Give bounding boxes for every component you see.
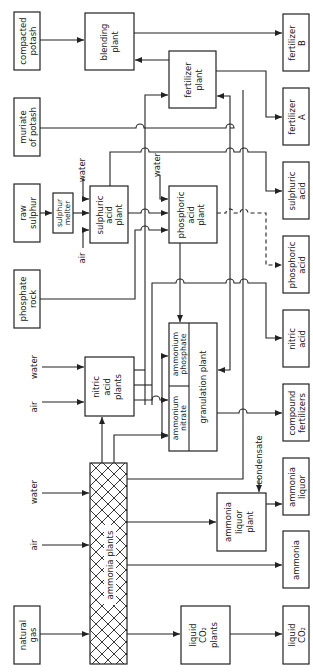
svg-text:CO₂: CO₂ <box>297 627 307 643</box>
svg-text:plant: plant <box>194 68 204 90</box>
svg-text:acid: acid <box>297 182 307 200</box>
ammonia-plants: ammonia plants <box>90 463 127 664</box>
sulphur-melter: sulphur melter <box>53 193 73 233</box>
svg-text:ammonia: ammonia <box>291 540 301 580</box>
svg-text:compound: compound <box>287 391 297 436</box>
output-compound-fertilizers: compound fertilizers <box>283 384 309 441</box>
svg-text:fertilizer: fertilizer <box>183 62 193 98</box>
granulation-plant: ammonium phosphate ammonium nitrate gran… <box>169 323 217 451</box>
svg-text:raw: raw <box>18 205 28 221</box>
svg-text:acid: acid <box>104 206 114 224</box>
nitric-acid-plants: nitric acid plants <box>85 357 134 416</box>
svg-text:melter: melter <box>63 200 72 226</box>
svg-text:granulation plant: granulation plant <box>198 350 208 424</box>
water-label: water <box>29 479 39 504</box>
ammonia-liquor-plant: ammonia liquor plant <box>217 493 266 551</box>
svg-text:liquor: liquor <box>297 474 307 499</box>
svg-text:ammonia: ammonia <box>223 502 233 542</box>
svg-text:phosphate: phosphate <box>179 333 188 374</box>
svg-text:compacted: compacted <box>18 17 28 64</box>
air-label: air <box>29 539 39 551</box>
svg-text:fertilizers: fertilizers <box>297 393 307 433</box>
output-fertilizer-a: fertilizer A <box>283 88 309 145</box>
svg-text:phosphate: phosphate <box>18 277 28 322</box>
input-natural-gas: natural gas <box>14 606 40 664</box>
phosphoric-acid-plant: phosphoric acid plant <box>169 186 217 243</box>
svg-text:plant: plant <box>110 30 120 52</box>
svg-text:acid: acid <box>297 256 307 274</box>
svg-text:muriate: muriate <box>18 110 28 143</box>
svg-text:fertilizer: fertilizer <box>287 99 297 135</box>
svg-text:liquid: liquid <box>287 623 297 646</box>
svg-text:phosphoric: phosphoric <box>176 191 186 238</box>
water-label: water <box>152 152 162 177</box>
liquid-co2-plants: liquid CO₂ plants <box>181 606 230 664</box>
input-compacted-potash: compacted potash <box>14 12 40 70</box>
svg-text:of potash: of potash <box>28 107 38 147</box>
process-flow-diagram: compacted potash blending plant fertiliz… <box>0 0 313 672</box>
svg-text:potash: potash <box>28 27 38 56</box>
output-sulphuric-acid: sulphuric acid <box>283 162 309 219</box>
svg-text:acid: acid <box>102 378 112 396</box>
output-phosphoric-acid: phosphoric acid <box>283 236 309 293</box>
svg-text:nitrate: nitrate <box>179 405 188 431</box>
svg-text:plant: plant <box>114 203 124 225</box>
svg-text:plant: plant <box>245 510 255 532</box>
svg-text:phosphoric: phosphoric <box>287 241 297 288</box>
air-label: air <box>77 252 87 264</box>
sulphuric-acid-plant: sulphuric acid plant <box>90 186 128 243</box>
air-label: air <box>29 401 39 413</box>
svg-text:liquor: liquor <box>234 509 244 534</box>
svg-text:ammonia plants: ammonia plants <box>105 530 115 599</box>
blending-plant: blending plant <box>85 13 134 70</box>
svg-text:liquid: liquid <box>188 623 198 646</box>
svg-text:fertilizer: fertilizer <box>287 25 297 61</box>
svg-text:blending: blending <box>99 24 109 61</box>
svg-text:B: B <box>297 40 307 46</box>
svg-text:nitric: nitric <box>287 328 297 350</box>
svg-text:plant: plant <box>196 203 206 225</box>
svg-text:plants: plants <box>209 621 219 648</box>
output-ammonia: ammonia <box>283 531 309 588</box>
svg-text:A: A <box>297 114 307 120</box>
svg-text:nitric: nitric <box>91 376 101 398</box>
svg-text:gas: gas <box>28 627 38 643</box>
svg-text:sulphuric: sulphuric <box>287 171 297 210</box>
output-ammonia-liquor: ammonia liquor <box>283 458 309 515</box>
water-label: water <box>29 354 39 379</box>
water-label: water <box>77 157 87 182</box>
svg-text:rock: rock <box>28 290 38 308</box>
output-liquid-co2: liquid CO₂ <box>283 606 309 664</box>
fertilizer-plant: fertilizer plant <box>169 51 216 108</box>
svg-text:ammonia: ammonia <box>287 467 297 507</box>
svg-text:acid: acid <box>297 330 307 348</box>
input-phosphate-rock: phosphate rock <box>14 270 40 328</box>
svg-text:CO₂: CO₂ <box>198 627 208 643</box>
output-fertilizer-b: fertilizer B <box>283 14 309 71</box>
condensate-label: condensate <box>254 435 264 484</box>
input-raw-sulphur: raw sulphur <box>14 184 40 242</box>
svg-text:sulphur: sulphur <box>28 197 38 229</box>
svg-text:acid: acid <box>186 206 196 224</box>
output-nitric-acid: nitric acid <box>283 310 309 367</box>
input-muriate-of-potash: muriate of potash <box>14 98 40 156</box>
svg-text:natural: natural <box>18 620 28 650</box>
svg-text:plants: plants <box>113 373 123 400</box>
